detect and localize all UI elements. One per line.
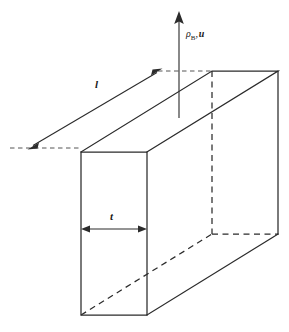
- thickness-arrowhead-right: [138, 226, 147, 233]
- bottom-right-diagonal-edge: [147, 234, 278, 315]
- thickness-dimension-group: [81, 226, 147, 233]
- figure-root: l t ρB, u: [0, 0, 289, 332]
- velocity-symbol: u: [199, 28, 205, 39]
- length-label: l: [95, 79, 98, 90]
- label-separator: ,: [195, 28, 198, 39]
- length-dimension-group: [10, 69, 213, 150]
- velocity-vector-group: [174, 11, 184, 118]
- thickness-label: t: [110, 211, 113, 222]
- density-velocity-label: ρB, u: [186, 29, 204, 42]
- slab-diagram: [0, 0, 289, 332]
- front-face-rectangle: [81, 152, 147, 315]
- thickness-arrowhead-left: [81, 226, 90, 233]
